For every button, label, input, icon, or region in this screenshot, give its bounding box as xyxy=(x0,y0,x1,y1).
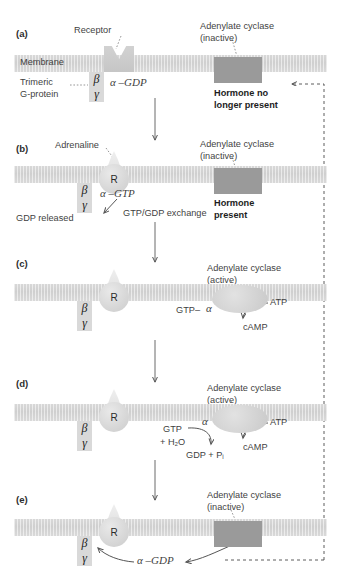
membrane-b xyxy=(14,166,327,183)
beta-subunit-e: β xyxy=(77,536,92,551)
label-cyclase-title-e: Adenylate cyclase xyxy=(207,490,281,502)
cyclase-inactive-b xyxy=(214,168,262,194)
cyclase-active-c xyxy=(212,285,268,313)
cyclase-inactive-e xyxy=(214,521,262,547)
figure-canvas: (a) Receptor Adenylate cyclase (inactive… xyxy=(0,0,337,586)
label-gtp-gdp-exchange: GTP/GDP exchange xyxy=(123,208,207,220)
panel-b-id: (b) xyxy=(16,143,28,154)
label-camp-d: cAMP xyxy=(243,442,268,454)
receptor-letter-b: R xyxy=(99,174,129,185)
arrow-gdp-released xyxy=(104,199,117,213)
label-gdp-released: GDP released xyxy=(16,213,74,225)
label-atp-c: ATP xyxy=(270,297,287,309)
label-alpha-gtp-b: α –GTP xyxy=(100,188,135,200)
beta-subunit-d: β xyxy=(77,421,92,436)
label-cyclase-state-b: (inactive) xyxy=(200,151,237,163)
panel-c-id: (c) xyxy=(16,258,28,269)
gamma-subunit-d: γ xyxy=(77,436,92,451)
label-alpha-d: α xyxy=(202,416,208,428)
gamma-subunit-c: γ xyxy=(77,316,92,331)
label-gtp-d: GTP xyxy=(163,424,182,436)
membrane-e xyxy=(14,519,327,536)
label-alpha-gdp-e: α –GDP xyxy=(137,555,174,567)
receptor-body-e: R xyxy=(99,517,129,547)
label-water-d: + H₂O xyxy=(160,437,185,449)
receptor-body-d: R xyxy=(99,402,129,432)
gamma-subunit-e: γ xyxy=(77,551,92,566)
label-hormone-present-1: Hormone xyxy=(214,198,254,210)
arrow-gtp-hydrolysis xyxy=(188,428,211,444)
receptor-d: R xyxy=(99,389,129,433)
feedback-dashed-loop xyxy=(222,84,324,560)
label-cyclase-title-d: Adenylate cyclase xyxy=(207,383,281,395)
receptor-letter-c: R xyxy=(99,292,129,303)
receptor-letter-e: R xyxy=(99,527,129,538)
label-adrenaline: Adrenaline xyxy=(55,140,99,152)
arrow-alphagdp-to-bg xyxy=(98,548,134,562)
label-atp-d: ATP xyxy=(270,417,287,429)
receptor-letter-d: R xyxy=(99,412,129,423)
panel-e: (e) Adenylate cyclase (inactive) R β γ α… xyxy=(0,0,337,110)
gamma-subunit-b: γ xyxy=(77,198,92,213)
arrow-cyclase-to-alphagdp xyxy=(186,545,232,562)
label-alpha-c: α xyxy=(206,303,212,315)
panel-d-id: (d) xyxy=(16,378,28,389)
cyclase-active-d xyxy=(212,405,268,433)
label-gdp-pi-d: GDP + Pᵢ xyxy=(186,450,224,462)
receptor-e: R xyxy=(99,504,129,548)
label-camp-c: cAMP xyxy=(243,322,268,334)
beta-subunit-b: β xyxy=(77,183,92,198)
label-cyclase-title-b: Adenylate cyclase xyxy=(200,139,274,151)
beta-subunit-c: β xyxy=(77,301,92,316)
label-cyclase-state-e: (inactive) xyxy=(207,502,244,514)
receptor-c: R xyxy=(99,269,129,313)
receptor-body-c: R xyxy=(99,282,129,312)
label-cyclase-title-c: Adenylate cyclase xyxy=(207,263,281,275)
label-hormone-present-2: present xyxy=(214,210,247,222)
label-gtp-c: GTP– xyxy=(176,305,200,317)
panel-e-id: (e) xyxy=(16,494,28,505)
